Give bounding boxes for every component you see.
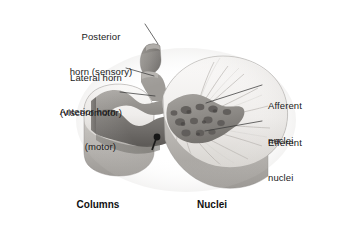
label-efferent-nuclei-line2: nuclei	[268, 172, 342, 184]
label-efferent-nuclei: Efferent nuclei	[268, 114, 342, 206]
label-posterior-horn-line1: Posterior	[58, 31, 144, 43]
label-anterior-horn: Anterior horn (motor)	[10, 83, 116, 175]
caption-nuclei: Nuclei	[174, 199, 250, 210]
label-efferent-nuclei-line1: Efferent	[268, 137, 342, 149]
leader-line-posterior-icon	[145, 24, 158, 44]
spinal-cord-figure: Posterior horn (sensory) Lateral horn (v…	[0, 0, 346, 238]
label-anterior-horn-line2: (motor)	[10, 141, 116, 153]
label-lateral-horn-line1: Lateral horn	[24, 72, 122, 84]
label-afferent-nuclei-line1: Afferent	[268, 100, 342, 112]
caption-columns: Columns	[58, 199, 138, 210]
label-anterior-horn-line1: Anterior horn	[10, 106, 116, 118]
